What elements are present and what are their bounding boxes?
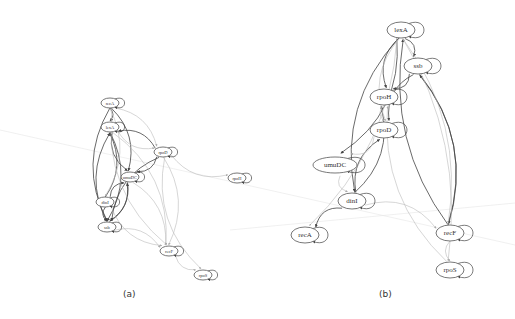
node-dinI: dinI bbox=[338, 193, 366, 209]
node-ssb: ssb bbox=[404, 58, 432, 74]
node-dinI: dinI bbox=[96, 197, 114, 207]
node-lexA: lexA bbox=[101, 122, 119, 132]
node-rpoS: rpoS bbox=[194, 270, 212, 280]
node-label: rpoS bbox=[443, 266, 456, 274]
node-label: recA bbox=[298, 231, 312, 239]
node-label: lexA bbox=[106, 125, 115, 130]
node-lexA: lexA bbox=[387, 22, 415, 38]
node-label: umuDC bbox=[123, 175, 137, 180]
node-label: dinI bbox=[346, 197, 358, 205]
node-recA: recA bbox=[291, 227, 319, 243]
node-recA: recA bbox=[101, 98, 119, 108]
node-rpoD: rpoD bbox=[154, 147, 172, 157]
graph-panel-a: recAlexArpoDumuDCrpoHdinIssbrecFrpoS bbox=[93, 98, 252, 280]
edge-rpoD-to-umuDC bbox=[137, 157, 157, 172]
node-label: rpoD bbox=[158, 150, 168, 155]
node-ssb: ssb bbox=[98, 222, 116, 232]
node-label: ssb bbox=[104, 225, 111, 230]
node-rpoD: rpoD bbox=[370, 122, 398, 138]
node-label: recF bbox=[444, 229, 457, 237]
edge-recA-to-rpoD bbox=[115, 108, 156, 146]
node-umuDC: umuDC bbox=[121, 172, 139, 182]
node-rpoH: rpoH bbox=[370, 89, 398, 105]
node-rpoS: rpoS bbox=[436, 262, 464, 278]
node-label: rpoD bbox=[377, 126, 391, 134]
node-label: ssb bbox=[414, 62, 423, 70]
node-umuDC: umuDC bbox=[313, 157, 357, 173]
edge-recF-to-rpoS bbox=[175, 256, 195, 270]
node-label: recF bbox=[165, 249, 173, 254]
network-figure: recAlexArpoDumuDCrpoHdinIssbrecFrpoS lex… bbox=[0, 0, 515, 319]
edge-rpoD-to-rpoH bbox=[171, 155, 228, 177]
caption-b: (b) bbox=[379, 289, 392, 299]
node-label: rpoS bbox=[199, 273, 208, 278]
node-label: umuDC bbox=[324, 161, 347, 169]
edge-ssb-to-recF bbox=[115, 229, 160, 248]
node-label: recA bbox=[106, 101, 115, 106]
edge-lexA-to-rpoD bbox=[379, 38, 400, 121]
edge-recA-to-umuDC bbox=[111, 108, 131, 171]
node-label: dinI bbox=[101, 200, 109, 205]
edge-rpoD-to-umuDC bbox=[351, 137, 374, 154]
edge-dinI-to-recF bbox=[365, 202, 436, 229]
graph-panel-b: lexAssbrpoHrpoDumuDCdinIrecArecFrpoS bbox=[291, 22, 473, 278]
background-lines bbox=[0, 130, 515, 245]
background-line bbox=[0, 130, 515, 245]
node-rpoH: rpoH bbox=[228, 173, 246, 183]
edge-umuDC-to-recF bbox=[133, 182, 166, 244]
edge-ssb-to-rpoH bbox=[393, 74, 409, 89]
node-recF: recF bbox=[436, 225, 464, 241]
edge-dinI-to-recA bbox=[316, 208, 342, 227]
caption-a: (a) bbox=[123, 289, 136, 299]
node-label: rpoH bbox=[232, 176, 242, 181]
node-label: lexA bbox=[394, 26, 408, 34]
edge-ssb-to-lexA bbox=[96, 133, 110, 222]
node-recF: recF bbox=[160, 246, 178, 256]
node-label: rpoH bbox=[377, 93, 391, 101]
